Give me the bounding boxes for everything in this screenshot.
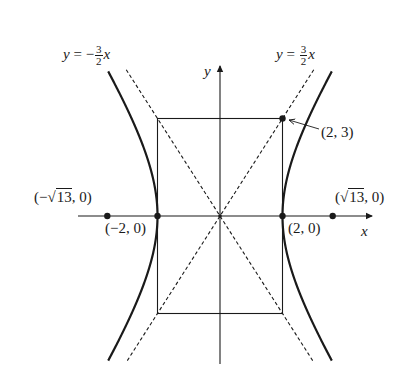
- y-axis-label: y: [204, 64, 211, 79]
- asymptote-label-negative: y = −32x: [63, 44, 110, 67]
- origin-marker: [218, 214, 222, 218]
- point-marker: [104, 213, 110, 219]
- point-label-pos-vertex: (2, 0): [288, 221, 321, 236]
- point-label-corner: (2, 3): [321, 125, 354, 140]
- point-label-neg-vertex: (−2, 0): [105, 221, 146, 236]
- asymptote-label-positive: y = 32x: [276, 44, 315, 67]
- point-marker: [154, 213, 160, 219]
- point-label-neg-sqrt13: (−√13, 0): [34, 190, 92, 205]
- point-marker: [329, 213, 335, 219]
- point-marker: [279, 115, 285, 121]
- point-label-pos-sqrt13: (√13, 0): [335, 190, 384, 205]
- x-axis-label: x: [361, 224, 368, 239]
- point-marker: [279, 213, 285, 219]
- coordinate-axes: [78, 66, 372, 364]
